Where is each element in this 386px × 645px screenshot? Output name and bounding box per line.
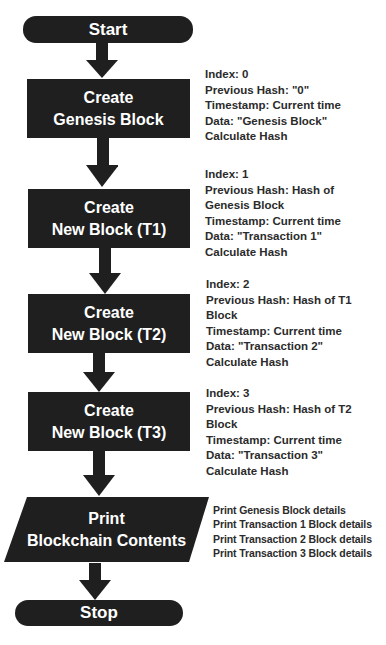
annotation-line: Previous Hash: Hash of: [205, 183, 341, 199]
create-block-t2-node: Create New Block (T2): [28, 294, 190, 353]
t3-annotation: Index: 3 Previous Hash: Hash of T2 Block…: [206, 386, 352, 479]
annotation-line: Previous Hash: Hash of T2: [206, 402, 352, 418]
annotation-line: Block: [206, 417, 352, 433]
print-label-line1: Print: [88, 508, 124, 530]
t1-label-line1: Create: [84, 197, 134, 219]
genesis-annotation: Index: 0 Previous Hash: "0" Timestamp: C…: [205, 67, 341, 145]
annotation-line: Genesis Block: [205, 198, 341, 214]
arrow-down-icon: [89, 248, 121, 295]
annotation-line: Index: 1: [205, 167, 341, 183]
t3-label-line1: Create: [84, 400, 134, 422]
arrow-down-icon: [83, 451, 115, 497]
annotation-line: Timestamp: Current time: [205, 98, 341, 114]
t1-label-line2: New Block (T1): [52, 219, 167, 241]
annotation-line: Index: 3: [206, 386, 352, 402]
stop-label: Stop: [80, 603, 118, 623]
annotation-line: Previous Hash: "0": [205, 83, 341, 99]
arrow-down-icon: [83, 353, 115, 393]
print-label-line2: Blockchain Contents: [27, 530, 186, 552]
start-node: Start: [23, 16, 193, 43]
create-block-t3-node: Create New Block (T3): [28, 392, 190, 451]
annotation-line: Timestamp: Current time: [206, 433, 352, 449]
t2-label-line1: Create: [84, 302, 134, 324]
annotation-line: Data: "Transaction 1": [205, 229, 341, 245]
annotation-line: Index: 0: [205, 67, 341, 83]
t2-label-line2: New Block (T2): [52, 324, 167, 346]
annotation-line: Data: "Transaction 2": [206, 339, 352, 355]
arrow-down-icon: [86, 43, 118, 79]
print-blockchain-node: Print Blockchain Contents: [3, 497, 210, 563]
annotation-line: Calculate Hash: [206, 355, 352, 371]
annotation-line: Timestamp: Current time: [206, 324, 352, 340]
t1-annotation: Index: 1 Previous Hash: Hash of Genesis …: [205, 167, 341, 260]
annotation-line: Previous Hash: Hash of T1: [206, 293, 352, 309]
annotation-line: Block: [206, 308, 352, 324]
arrow-down-icon: [86, 138, 118, 189]
genesis-label-line1: Create: [84, 87, 134, 109]
annotation-line: Print Transaction 3 Block details: [213, 546, 372, 560]
t3-label-line2: New Block (T3): [52, 422, 167, 444]
create-block-t1-node: Create New Block (T1): [28, 189, 190, 248]
create-genesis-block-node: Create Genesis Block: [27, 79, 190, 138]
annotation-line: Print Transaction 2 Block details: [213, 532, 372, 546]
annotation-line: Timestamp: Current time: [205, 214, 341, 230]
arrow-down-icon: [79, 563, 111, 601]
annotation-line: Data: "Transaction 3": [206, 448, 352, 464]
print-annotation: Print Genesis Block details Print Transa…: [213, 503, 372, 560]
annotation-line: Calculate Hash: [205, 245, 341, 261]
annotation-line: Print Transaction 1 Block details: [213, 517, 372, 531]
annotation-line: Data: "Genesis Block": [205, 114, 341, 130]
genesis-label-line2: Genesis Block: [53, 109, 163, 131]
annotation-line: Calculate Hash: [206, 464, 352, 480]
annotation-line: Calculate Hash: [205, 129, 341, 145]
start-label: Start: [89, 20, 128, 40]
stop-node: Stop: [15, 600, 183, 626]
t2-annotation: Index: 2 Previous Hash: Hash of T1 Block…: [206, 277, 352, 370]
annotation-line: Index: 2: [206, 277, 352, 293]
annotation-line: Print Genesis Block details: [213, 503, 372, 517]
